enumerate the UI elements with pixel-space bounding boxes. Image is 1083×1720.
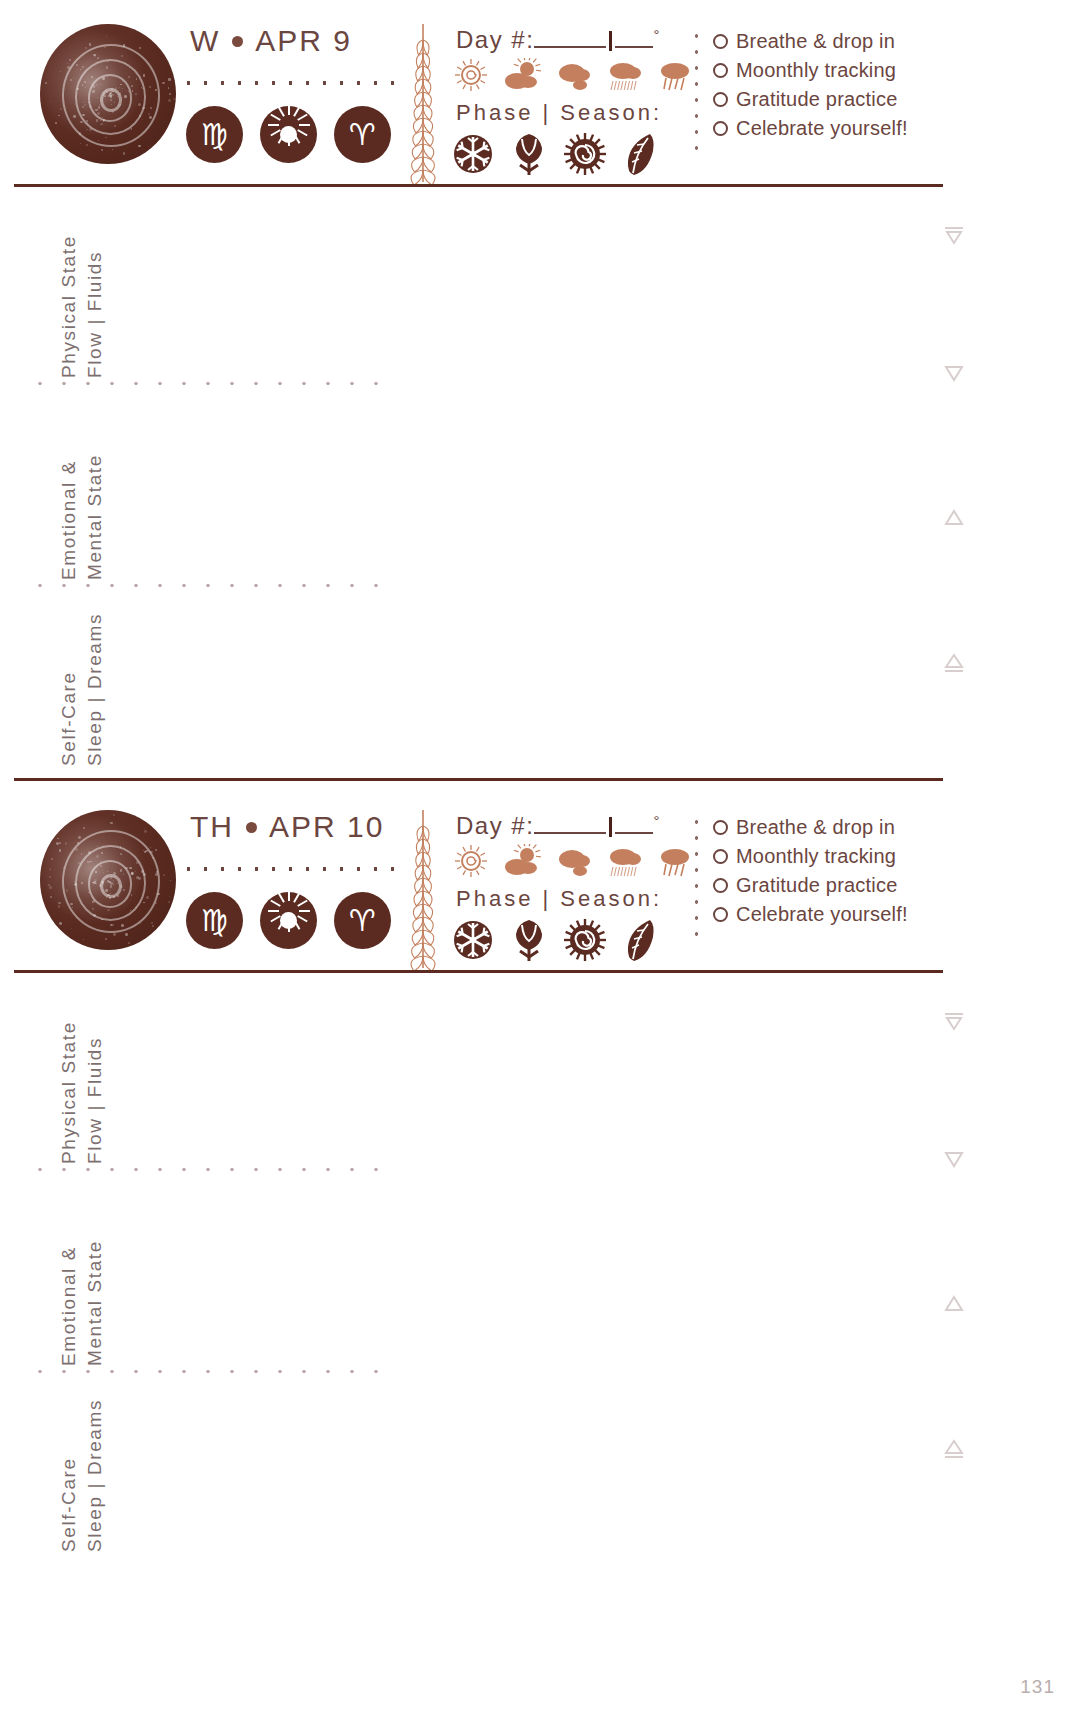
journal-section: Physical StateFlow | Fluids — [0, 196, 1083, 386]
leaf-autumn-icon[interactable] — [620, 131, 662, 177]
tick-mark-icon — [609, 817, 612, 837]
tulip-spring-icon[interactable] — [508, 917, 550, 963]
zodiac-aries-badge[interactable]: ♈ — [334, 106, 391, 163]
journal-section: Self-CareSleep | Dreams — [0, 588, 1083, 774]
writing-area[interactable] — [100, 982, 1023, 1172]
moon-illustration — [40, 24, 176, 164]
checkbox-circle-icon[interactable] — [713, 121, 728, 136]
checkbox-circle-icon[interactable] — [713, 849, 728, 864]
checkbox-circle-icon[interactable] — [713, 63, 728, 78]
temperature-blank[interactable] — [615, 817, 653, 834]
vertical-dotted-separator — [694, 814, 699, 944]
checklist-item[interactable]: Breathe & drop in — [713, 28, 908, 54]
checklist-item[interactable]: Moonthly tracking — [713, 57, 908, 83]
zodiac-virgo-badge[interactable]: ♍ — [186, 106, 243, 163]
leaf-autumn-icon[interactable] — [620, 917, 662, 963]
date-heading: WAPR 9 — [190, 24, 420, 58]
journal-section: Emotional &Mental State — [0, 386, 1083, 588]
checklist-item[interactable]: Celebrate yourself! — [713, 901, 908, 927]
page-number: 131 — [1020, 1676, 1055, 1698]
separator-dot-icon — [246, 822, 257, 833]
zodiac-aries-badge[interactable]: ♈ — [334, 892, 391, 949]
checkbox-circle-icon[interactable] — [713, 820, 728, 835]
triangle-down-icon[interactable] — [943, 1149, 965, 1169]
journal-section: Self-CareSleep | Dreams — [0, 1374, 1083, 1560]
triangle-up-bar-icon[interactable] — [943, 1439, 965, 1459]
day-number-blank[interactable] — [534, 817, 606, 834]
checklist-item[interactable]: Celebrate yourself! — [713, 115, 908, 141]
temperature-blank[interactable] — [615, 31, 653, 48]
rain-cloud-icon[interactable] — [605, 58, 643, 92]
sun-spiral-summer-icon[interactable] — [564, 131, 606, 177]
snowflake-winter-icon[interactable] — [452, 917, 494, 963]
writing-area[interactable] — [100, 588, 1023, 774]
storm-cloud-icon[interactable] — [656, 844, 694, 878]
section-label-line1: Self-Care — [58, 1457, 80, 1552]
daily-checklist: Breathe & drop inMoonthly trackingGratit… — [713, 814, 908, 930]
journal-section: Emotional &Mental State — [0, 1172, 1083, 1374]
checkbox-circle-icon[interactable] — [713, 878, 728, 893]
sun-badge[interactable] — [260, 106, 317, 163]
sun-behind-cloud-icon[interactable] — [503, 58, 541, 92]
degree-symbol: ° — [653, 812, 661, 829]
tulip-spring-icon[interactable] — [508, 131, 550, 177]
storm-cloud-icon[interactable] — [656, 58, 694, 92]
writing-area[interactable] — [100, 196, 1023, 386]
fern-branch-icon — [405, 22, 441, 184]
writing-area[interactable] — [100, 1172, 1023, 1374]
section-divider-rule — [14, 970, 943, 973]
snowflake-winter-icon[interactable] — [452, 131, 494, 177]
triangle-down-icon[interactable] — [943, 363, 965, 383]
tick-mark-icon — [609, 31, 612, 51]
sun-spiral-summer-icon[interactable] — [564, 917, 606, 963]
writing-area[interactable] — [100, 1374, 1023, 1560]
checklist-item[interactable]: Moonthly tracking — [713, 843, 908, 869]
section-label: Physical StateFlow | Fluids — [0, 982, 80, 1172]
season-icon-row — [452, 917, 662, 963]
checklist-item[interactable]: Breathe & drop in — [713, 814, 908, 840]
vertical-dotted-separator — [694, 28, 699, 158]
block-separator-rule — [14, 778, 943, 781]
moon-spiral-icon — [40, 810, 176, 950]
rain-cloud-icon[interactable] — [605, 844, 643, 878]
writing-area[interactable] — [100, 386, 1023, 588]
sun-behind-cloud-icon[interactable] — [503, 844, 541, 878]
checklist-item-label: Gratitude practice — [736, 874, 897, 897]
phase-season-label: Phase | Season: — [456, 886, 662, 912]
sun-icon[interactable] — [452, 844, 490, 878]
checkbox-circle-icon[interactable] — [713, 92, 728, 107]
checkbox-circle-icon[interactable] — [713, 907, 728, 922]
triangle-up-icon[interactable] — [943, 1294, 965, 1314]
triangle-up-bar-icon[interactable] — [943, 653, 965, 673]
day-header: WAPR 9♍♈Day #:°Phase | Season:Breathe & … — [0, 0, 1083, 185]
checklist-item-label: Breathe & drop in — [736, 30, 895, 53]
weekday-abbrev: TH — [190, 810, 234, 843]
section-label: Emotional &Mental State — [0, 1172, 80, 1374]
zodiac-virgo-badge[interactable]: ♍ — [186, 892, 243, 949]
day-number-blank[interactable] — [534, 31, 606, 48]
cloud-icon[interactable] — [554, 58, 592, 92]
sun-icon[interactable] — [452, 58, 490, 92]
triangle-down-bar-icon[interactable] — [943, 225, 965, 245]
dotted-rule — [180, 866, 400, 872]
day-header: THAPR 10♍♈Day #:°Phase | Season:Breathe … — [0, 786, 1083, 971]
triangle-down-bar-icon[interactable] — [943, 1011, 965, 1031]
checklist-item-label: Moonthly tracking — [736, 845, 896, 868]
day-block: THAPR 10♍♈Day #:°Phase | Season:Breathe … — [0, 786, 1083, 971]
separator-dot-icon — [232, 36, 243, 47]
checklist-item[interactable]: Gratitude practice — [713, 86, 908, 112]
section-label-line1: Physical State — [58, 235, 80, 378]
season-icon-row — [452, 131, 662, 177]
journal-section: Physical StateFlow | Fluids — [0, 982, 1083, 1172]
weather-icon-row — [452, 58, 694, 92]
triangle-up-icon[interactable] — [943, 508, 965, 528]
sun-badge[interactable] — [260, 892, 317, 949]
checkbox-circle-icon[interactable] — [713, 34, 728, 49]
checklist-item-label: Celebrate yourself! — [736, 903, 908, 926]
checklist-item[interactable]: Gratitude practice — [713, 872, 908, 898]
section-label-line1: Self-Care — [58, 671, 80, 766]
section-label: Physical StateFlow | Fluids — [0, 196, 80, 386]
fern-branch-icon — [405, 808, 441, 970]
checklist-item-label: Celebrate yourself! — [736, 117, 908, 140]
cloud-icon[interactable] — [554, 844, 592, 878]
